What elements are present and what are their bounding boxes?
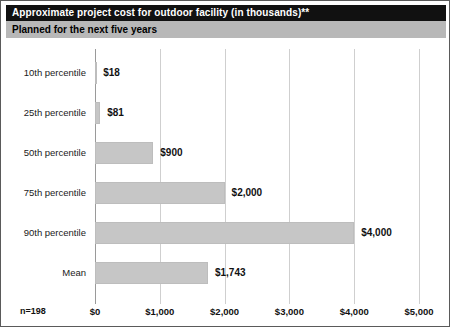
x-tick-label: $1,000 bbox=[145, 306, 174, 317]
bar bbox=[95, 182, 225, 204]
x-axis: $0$1,000$2,000$3,000$4,000$5,000 bbox=[95, 304, 419, 323]
bar-value-label: $1,743 bbox=[208, 262, 246, 284]
plot-container: 10th percentile$1825th percentile$8150th… bbox=[6, 41, 446, 323]
plot-area: 10th percentile$1825th percentile$8150th… bbox=[95, 49, 419, 304]
chart-subtitle: Planned for the next five years bbox=[6, 21, 446, 38]
x-tick-label: $2,000 bbox=[210, 306, 239, 317]
chart-card: Approximate project cost for outdoor fac… bbox=[0, 0, 450, 327]
bar bbox=[95, 142, 153, 164]
chart-title: Approximate project cost for outdoor fac… bbox=[6, 5, 446, 21]
bar bbox=[95, 222, 354, 244]
category-label: 10th percentile bbox=[0, 53, 95, 93]
chart-row: 75th percentile$2,000 bbox=[95, 173, 419, 213]
chart-row: Mean$1,743 bbox=[95, 253, 419, 293]
category-label: Mean bbox=[0, 253, 95, 293]
bar-value-label: $81 bbox=[100, 102, 124, 124]
category-label: 90th percentile bbox=[0, 213, 95, 253]
category-label: 75th percentile bbox=[0, 173, 95, 213]
x-tick-label: $5,000 bbox=[404, 306, 433, 317]
chart-row: 10th percentile$18 bbox=[95, 53, 419, 93]
chart-row: 50th percentile$900 bbox=[95, 133, 419, 173]
x-tick-label: $0 bbox=[90, 306, 101, 317]
chart-row: 90th percentile$4,000 bbox=[95, 213, 419, 253]
bar-value-label: $900 bbox=[153, 142, 182, 164]
bar-value-label: $18 bbox=[96, 62, 120, 84]
x-tick-label: $3,000 bbox=[275, 306, 304, 317]
gridline-5000 bbox=[419, 49, 420, 304]
bar bbox=[95, 262, 208, 284]
sample-size-label: n=198 bbox=[20, 306, 46, 316]
chart-row: 25th percentile$81 bbox=[95, 93, 419, 133]
x-tick-label: $4,000 bbox=[340, 306, 369, 317]
category-label: 25th percentile bbox=[0, 93, 95, 133]
bar-value-label: $2,000 bbox=[225, 182, 263, 204]
category-label: 50th percentile bbox=[0, 133, 95, 173]
bar-value-label: $4,000 bbox=[354, 222, 392, 244]
